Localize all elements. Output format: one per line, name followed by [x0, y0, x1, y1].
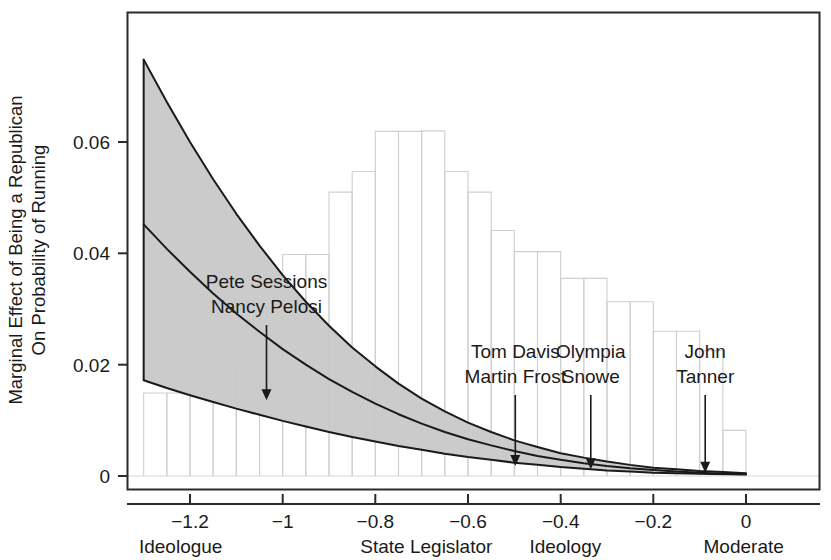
- x-axis-category-label: State Legislator: [360, 536, 493, 557]
- annotation-label-line-1: Tom Davis: [471, 341, 560, 362]
- x-axis-tick-label: −0.2: [635, 511, 673, 532]
- annotation-label-line-1: Olympia: [556, 341, 626, 362]
- x-axis-category-label: Moderate: [704, 536, 784, 557]
- x-axis-tick-label: −0.8: [357, 511, 395, 532]
- annotation-label-line-2: Tanner: [676, 366, 735, 387]
- marginal-effect-chart: Marginal Effect of Being a Republican On…: [0, 0, 831, 560]
- y-axis-tick-label: 0: [99, 466, 110, 487]
- y-axis-tick-label: 0.02: [73, 355, 110, 376]
- x-axis-tick-label: −0.4: [542, 511, 580, 532]
- chart-figure: Marginal Effect of Being a Republican On…: [0, 0, 831, 560]
- y-axis-tick-label: 0.04: [73, 243, 110, 264]
- x-axis-category-label: Ideology: [529, 536, 601, 557]
- y-axis-tick-label: 0.06: [73, 132, 110, 153]
- annotation-label-line-2: Nancy Pelosi: [211, 296, 322, 317]
- x-axis-tick-label: −1.2: [171, 511, 209, 532]
- x-axis-tick-label: −1: [272, 511, 294, 532]
- annotation-label-line-1: Pete Sessions: [206, 271, 327, 292]
- x-axis-tick-label: −0.6: [449, 511, 487, 532]
- annotation-label-line-2: Snowe: [562, 366, 620, 387]
- x-axis-category-label: Ideologue: [139, 536, 222, 557]
- x-axis-tick-label: 0: [741, 511, 752, 532]
- annotation-label-line-1: John: [685, 341, 726, 362]
- y-axis-title-line-2: On Probability of Running: [28, 145, 49, 356]
- y-axis-title-line-1: Marginal Effect of Being a Republican: [5, 95, 26, 404]
- annotation-label-line-2: Martin Frost: [465, 366, 567, 387]
